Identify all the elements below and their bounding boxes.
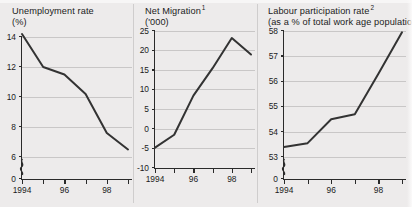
chart-subtitle-labour-participation: (as a % of total work age population) xyxy=(268,17,408,28)
plot-canvas-net-migration: 2520151050-5-1019949698 xyxy=(155,31,255,168)
y-axis-label: 14 xyxy=(0,32,16,42)
x-axis-label: 1994 xyxy=(13,185,32,195)
y-axis-label: 58 xyxy=(258,26,278,36)
data-series-line xyxy=(155,31,259,172)
chart-subtitle-net-migration: ('000) xyxy=(145,17,254,28)
plot-area-unemployment: 14121086019949698 xyxy=(0,31,134,179)
y-axis-label: 5 xyxy=(129,104,149,114)
y-axis-zero-label: 0 xyxy=(0,174,16,184)
plot-canvas-labour-participation: 585756555453019949698 xyxy=(284,31,406,179)
y-axis-label: 8 xyxy=(0,122,16,132)
chart-title-footnote-marker: 2 xyxy=(369,4,374,11)
y-axis-label: 15 xyxy=(129,65,149,75)
x-axis-label: 1994 xyxy=(146,174,165,184)
chart-panel-unemployment: Unemployment rate (%) 14121086019949698 xyxy=(0,0,134,207)
data-series-line xyxy=(22,31,136,183)
y-axis-label: -10 xyxy=(129,163,149,173)
data-series-line xyxy=(284,31,410,183)
y-axis-zero-label: 0 xyxy=(258,174,278,184)
plot-area-net-migration: 2520151050-5-1019949698 xyxy=(134,31,258,168)
plot-area-labour-participation: 585756555453019949698 xyxy=(258,31,412,179)
chart-title-block-net-migration: Net Migration1 ('000) xyxy=(134,6,258,28)
plot-canvas-unemployment: 14121086019949698 xyxy=(22,31,132,179)
chart-title-net-migration: Net Migration1 xyxy=(145,6,254,17)
y-axis-label: 0 xyxy=(129,124,149,134)
y-axis-label: 54 xyxy=(258,127,278,137)
y-axis-label: 10 xyxy=(129,84,149,94)
y-axis-label: 6 xyxy=(0,152,16,162)
x-axis-label: 96 xyxy=(327,185,336,195)
y-axis-label: 53 xyxy=(258,152,278,162)
chart-title-block-labour-participation: Labour participation rate2 (as a % of to… xyxy=(258,6,412,28)
chart-title-text: Net Migration xyxy=(145,6,201,16)
x-axis-label: 96 xyxy=(60,185,69,195)
chart-title-unemployment: Unemployment rate xyxy=(12,6,130,17)
y-axis-label: 55 xyxy=(258,101,278,111)
y-axis-label: 57 xyxy=(258,51,278,61)
y-axis-label: 56 xyxy=(258,76,278,86)
y-axis-label: 25 xyxy=(129,26,149,36)
chart-title-footnote-marker: 1 xyxy=(201,4,206,11)
x-axis-label: 98 xyxy=(374,185,383,195)
chart-panel-net-migration: Net Migration1 ('000) 2520151050-5-10199… xyxy=(134,0,258,207)
y-axis-label: 10 xyxy=(0,92,16,102)
y-axis-label: -5 xyxy=(129,143,149,153)
y-axis-label: 20 xyxy=(129,45,149,55)
chart-title-text: Unemployment rate xyxy=(12,6,94,16)
chart-title-block-unemployment: Unemployment rate (%) xyxy=(0,6,134,28)
x-axis-label: 96 xyxy=(189,174,198,184)
chart-title-labour-participation: Labour participation rate2 xyxy=(268,6,408,17)
y-axis-label: 12 xyxy=(0,62,16,72)
chart-panel-labour-participation: Labour participation rate2 (as a % of to… xyxy=(258,0,412,207)
x-axis-label: 1994 xyxy=(275,185,294,195)
x-axis-label: 98 xyxy=(102,185,111,195)
x-axis-label: 98 xyxy=(227,174,236,184)
chart-subtitle-unemployment: (%) xyxy=(12,17,130,28)
chart-title-text: Labour participation rate xyxy=(268,6,369,16)
charts-figure: Unemployment rate (%) 14121086019949698 … xyxy=(0,0,412,207)
